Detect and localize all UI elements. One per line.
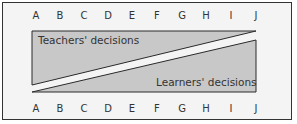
bottom-scale-letter: A <box>33 103 40 114</box>
teachers-decisions-label: Teachers' decisions <box>37 34 139 46</box>
top-scale-letter: A <box>33 10 40 21</box>
bottom-scale-letter: D <box>104 103 112 114</box>
bottom-scale-letter: J <box>254 103 258 114</box>
bottom-scale-letter: G <box>178 103 186 114</box>
top-scale-letter: H <box>202 10 210 21</box>
bottom-scale-letter: I <box>230 103 233 114</box>
top-scale-letter: I <box>230 10 233 21</box>
top-scale-letter: D <box>104 10 112 21</box>
top-scale-letter: J <box>254 10 258 21</box>
decision-continuum-diagram: A B C D E F G H I J Teachers' decisions … <box>0 0 297 124</box>
bottom-scale-letter: C <box>81 103 88 114</box>
learners-decisions-label: Learners' decisions <box>156 76 257 88</box>
top-scale-letter: C <box>81 10 88 21</box>
top-scale-letter: E <box>129 10 135 21</box>
top-scale-letter: F <box>154 10 160 21</box>
bottom-scale-letter: E <box>129 103 135 114</box>
bottom-scale-letter: F <box>154 103 160 114</box>
top-scale-letter: B <box>57 10 64 21</box>
bottom-scale-letter: B <box>57 103 64 114</box>
top-scale-letter: G <box>178 10 186 21</box>
bottom-scale-letter: H <box>202 103 210 114</box>
